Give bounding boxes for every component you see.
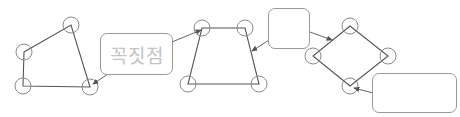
trapezoid-shape — [180, 20, 267, 92]
arrow-to-trapezoid-right-edge — [252, 40, 269, 51]
arrow-vertex-label — [93, 74, 108, 84]
vertex-label-box: 꼭짓점 — [100, 33, 173, 75]
blank-label-box-top — [268, 8, 310, 49]
arrow-to-rhombus-edge — [310, 32, 332, 40]
blank-label-box-bottom-right — [372, 73, 457, 113]
diagram-canvas: 꼭짓점 — [0, 0, 460, 117]
vertex-label-text: 꼭짓점 — [110, 41, 164, 68]
arrow-to-trapezoid-top-left — [172, 30, 201, 42]
quadrilateral-shape — [15, 17, 98, 95]
